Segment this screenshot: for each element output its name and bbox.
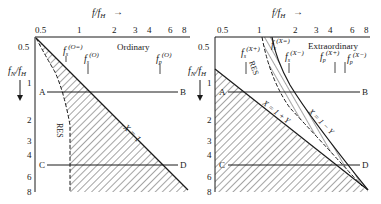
y-tick-label: 2: [207, 115, 212, 125]
marker-fp-x-minus: fp(X−): [347, 51, 367, 65]
x-tick-label: 4: [147, 25, 152, 35]
mode-label: Ordinary: [117, 42, 150, 52]
x-axis-title: f/fH: [92, 7, 106, 20]
y-axis-title: fN/fH: [188, 65, 207, 78]
y-tick-label: 0.5: [18, 42, 30, 52]
extraordinary-panel: f/fH → 0.5 1 2 3 4 6 8 0.5 1 2 3 4 6 8 f…: [188, 6, 370, 197]
x-tick-label: 0.5: [35, 25, 47, 35]
y-tick-label: 3: [27, 136, 32, 146]
x-tick-label: 0.5: [217, 25, 229, 35]
y-axis-arrow-head-icon: [197, 95, 203, 101]
point-d: D: [362, 160, 369, 170]
y-tick-label: 6: [27, 172, 32, 182]
x-tick-label: 6: [168, 25, 173, 35]
marker-fs-o: fs(O): [84, 51, 100, 65]
y-axis-arrow-head-icon: [17, 95, 23, 101]
x-ticks: 0.5 1 2 3 4 6 8: [35, 25, 187, 35]
y-tick-label: 4: [207, 150, 212, 160]
x-tick-label: 8: [364, 25, 369, 35]
x-axis-arrow-icon: →: [293, 6, 303, 17]
x-tick-label: 3: [133, 25, 138, 35]
x-tick-label: 6: [350, 25, 355, 35]
y-tick-label: 1: [27, 78, 32, 88]
marker-fs-x-minus: fs(X−): [285, 49, 304, 63]
x-axis-title: f/fH: [272, 7, 286, 20]
mode-label: Extraordinary: [308, 41, 358, 51]
y-tick-label: 4: [27, 150, 32, 160]
marker-fs-o-eq: fs(O=): [63, 43, 83, 57]
marker-fp-o: fp(O): [156, 51, 172, 65]
ordinary-panel: f/fH → 0.5 1 2 3 4 6 8 0.5 1 2 3 4 6 8: [8, 6, 190, 197]
x-tick-label: 4: [328, 25, 333, 35]
point-c: C: [39, 160, 45, 170]
point-a: A: [39, 87, 46, 97]
point-d: D: [180, 160, 187, 170]
point-b: B: [180, 87, 186, 97]
x-axis-arrow-icon: →: [113, 6, 123, 17]
point-a: A: [219, 87, 226, 97]
point-c: C: [219, 160, 225, 170]
x-tick-label: 2: [112, 25, 117, 35]
y-tick-label: 1: [207, 78, 212, 88]
y-tick-label: 6: [207, 172, 212, 182]
magnetoionic-diagram: f/fH → 0.5 1 2 3 4 6 8 0.5 1 2 3 4 6 8: [0, 0, 381, 204]
x-ticks: 0.5 1 2 3 4 6 8: [217, 25, 369, 35]
point-b: B: [362, 87, 368, 97]
y-tick-label: 3: [207, 136, 212, 146]
res-label: RES: [55, 123, 64, 138]
x-tick-label: 1: [77, 25, 82, 35]
x-tick-label: 2: [293, 25, 298, 35]
marker-fs-x-plus: fs(X+): [241, 45, 260, 59]
y-tick-label: 8: [27, 187, 32, 197]
res-label: RES: [247, 60, 260, 77]
x-tick-label: 3: [314, 25, 319, 35]
y-axis-title: fN/fH: [8, 65, 27, 78]
x-tick-label: 8: [182, 25, 187, 35]
y-tick-label: 8: [207, 187, 212, 197]
y-tick-label: 0.5: [198, 42, 210, 52]
marker-fp-x-plus: fp(X+): [320, 49, 340, 63]
y-tick-label: 2: [27, 115, 32, 125]
x-tick-label: 1: [257, 25, 262, 35]
